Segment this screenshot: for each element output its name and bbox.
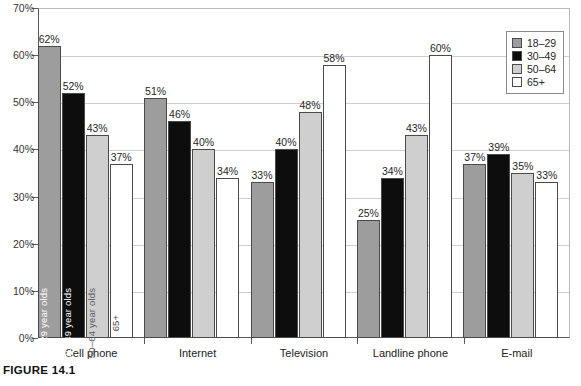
x-axis-category-label: Internet: [179, 347, 216, 359]
chart-legend: 18–2930–4950–6465+: [506, 31, 564, 94]
bar-value-label: 52%: [63, 80, 84, 92]
bar-value-label: 58%: [323, 52, 344, 64]
bar: 34%: [381, 178, 404, 338]
x-axis-tick: [144, 338, 145, 344]
y-axis-tick-label: 50%: [0, 96, 34, 108]
bar: 35%: [511, 173, 534, 338]
bar-value-label: 40%: [275, 136, 296, 148]
bar: 43%50–64 year olds: [86, 135, 109, 338]
x-axis-tick: [251, 338, 252, 344]
bar: 40%: [192, 149, 215, 338]
legend-swatch-icon: [512, 51, 522, 61]
bar: 25%: [357, 220, 380, 338]
legend-label: 18–29: [527, 37, 556, 49]
legend-item: 30–49: [512, 50, 556, 62]
bar: 60%: [429, 55, 452, 338]
y-axis-tick-label: 70%: [0, 2, 34, 14]
in-bar-annotation: 50–64 year olds: [86, 288, 97, 359]
bar-group: 62%18–29 year olds52%30–49 year olds43%5…: [38, 8, 133, 338]
bar-value-label: 39%: [488, 141, 509, 153]
bar-value-label: 60%: [430, 42, 451, 54]
legend-swatch-icon: [512, 38, 522, 48]
bar: 33%: [535, 182, 558, 338]
bar-group: 25%34%43%60%: [357, 8, 452, 338]
bar: 51%: [144, 98, 167, 338]
bar: 40%: [275, 149, 298, 338]
bar-value-label: 51%: [145, 85, 166, 97]
bar: 33%: [251, 182, 274, 338]
bar-value-label: 37%: [111, 151, 132, 163]
x-axis-tick: [464, 338, 465, 344]
bar: 52%30–49 year olds: [62, 93, 85, 338]
bar-value-label: 35%: [512, 160, 533, 172]
legend-label: 65+: [527, 76, 545, 88]
in-bar-annotation: 65+: [110, 315, 121, 332]
y-axis-tick-label: 20%: [0, 238, 34, 250]
bar-value-label: 37%: [464, 151, 485, 163]
bar-value-label: 33%: [536, 169, 557, 181]
x-axis-category-label: E-mail: [501, 347, 532, 359]
x-axis-category-label: Landline phone: [373, 347, 448, 359]
bar-value-label: 46%: [169, 108, 190, 120]
legend-swatch-icon: [512, 77, 522, 87]
in-bar-annotation: 18–29 year olds: [38, 288, 49, 359]
legend-item: 50–64: [512, 63, 556, 75]
bar: 37%: [463, 164, 486, 338]
bar-value-label: 43%: [87, 122, 108, 134]
bar-value-label: 48%: [299, 99, 320, 111]
legend-label: 50–64: [527, 63, 556, 75]
y-axis-tick-label: 10%: [0, 285, 34, 297]
bar: 62%18–29 year olds: [38, 46, 61, 338]
y-axis-tick-label: 0%: [0, 332, 34, 344]
y-axis-tick-label: 60%: [0, 49, 34, 61]
bar-value-label: 33%: [251, 169, 272, 181]
bar: 43%: [405, 135, 428, 338]
x-axis-category-label: Television: [280, 347, 328, 359]
bar-group: 51%46%40%34%: [144, 8, 239, 338]
bar: 34%: [216, 178, 239, 338]
y-axis-tick-label: 30%: [0, 191, 34, 203]
x-axis-tick: [357, 338, 358, 344]
legend-swatch-icon: [512, 64, 522, 74]
figure-caption: FIGURE 14.1: [3, 364, 75, 376]
bar-value-label: 40%: [193, 136, 214, 148]
figure-container: 0%10%20%30%40%50%60%70%Cell phoneInterne…: [0, 0, 581, 386]
y-axis-tick-label: 40%: [0, 143, 34, 155]
legend-item: 18–29: [512, 37, 556, 49]
bar-group: 33%40%48%58%: [251, 8, 346, 338]
bar-value-label: 25%: [358, 207, 379, 219]
bar-value-label: 34%: [382, 165, 403, 177]
legend-item: 65+: [512, 76, 556, 88]
bar: 46%: [168, 121, 191, 338]
in-bar-annotation: 30–49 year olds: [62, 288, 73, 359]
bar: 48%: [299, 112, 322, 338]
bar-value-label: 43%: [406, 122, 427, 134]
bar: 37%65+: [110, 164, 133, 338]
bar-value-label: 34%: [217, 165, 238, 177]
bar: 39%: [487, 154, 510, 338]
legend-label: 30–49: [527, 50, 556, 62]
bar-value-label: 62%: [39, 33, 60, 45]
bar: 58%: [323, 65, 346, 338]
